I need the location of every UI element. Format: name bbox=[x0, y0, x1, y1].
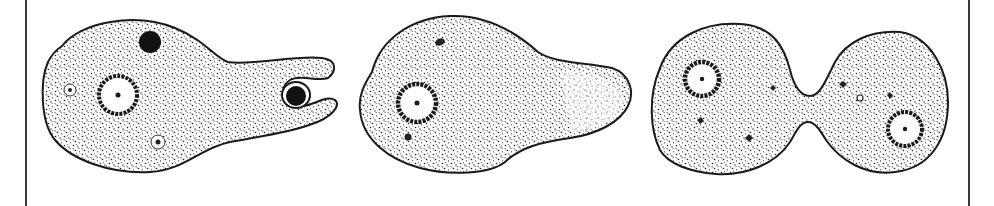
panel-pseudopod bbox=[360, 16, 631, 173]
nucleolus-dot-3b bbox=[903, 127, 907, 131]
nucleolus-dot-2 bbox=[415, 101, 420, 106]
amoeba-illustration bbox=[0, 0, 994, 206]
vacuole-small-10 bbox=[857, 95, 863, 101]
vacuole-small-4 bbox=[405, 134, 412, 141]
panel-engulfing bbox=[43, 20, 337, 172]
panel-fission bbox=[652, 24, 948, 174]
nucleolus-dot-3a bbox=[700, 77, 704, 81]
cell-membrane-3 bbox=[652, 24, 948, 174]
food-particle-dark bbox=[139, 31, 161, 53]
nucleolus-dot-1 bbox=[116, 93, 121, 98]
engulfed-food-particle bbox=[286, 86, 306, 106]
